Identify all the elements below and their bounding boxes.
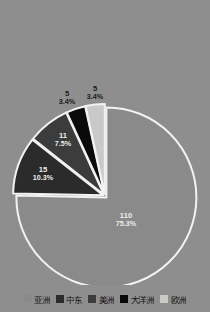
pie-svg bbox=[0, 0, 210, 285]
legend-swatch-icon bbox=[88, 295, 96, 303]
legend-item[interactable]: 亚洲 bbox=[24, 293, 50, 305]
pie-plot-area: 110 75.3% 15 10.3% 11 7.5% 5 3.4% 5 3.4% bbox=[0, 0, 210, 285]
legend-item[interactable]: 大洋洲 bbox=[120, 293, 154, 305]
legend-item-label: 欧洲 bbox=[171, 293, 187, 305]
legend-item-label: 中东 bbox=[66, 293, 82, 305]
legend-swatch-icon bbox=[160, 295, 168, 303]
legend-swatch-icon bbox=[56, 295, 64, 303]
legend-item[interactable]: 欧洲 bbox=[160, 293, 186, 305]
legend-item-label: 亚洲 bbox=[34, 293, 50, 305]
legend-swatch-icon bbox=[24, 295, 32, 303]
legend-item[interactable]: 美洲 bbox=[88, 293, 114, 305]
pie-chart-figure: 110 75.3% 15 10.3% 11 7.5% 5 3.4% 5 3.4%… bbox=[0, 0, 210, 312]
legend-item-label: 美洲 bbox=[99, 293, 115, 305]
legend-item[interactable]: 中东 bbox=[56, 293, 82, 305]
legend-item-label: 大洋洲 bbox=[131, 293, 154, 305]
chart-legend: 亚洲中东美洲大洋洲欧洲 bbox=[0, 290, 210, 308]
legend-swatch-icon bbox=[120, 295, 128, 303]
